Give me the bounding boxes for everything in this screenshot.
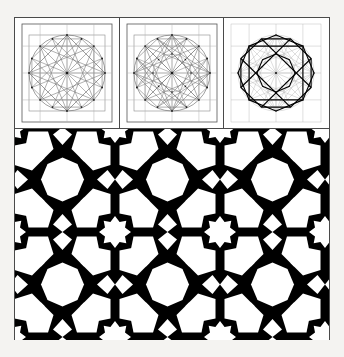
star-tessellation-region — [15, 128, 329, 340]
construction-svg-1 — [15, 18, 119, 128]
construction-svg-3 — [224, 18, 328, 128]
construction-diagram-row — [15, 18, 329, 128]
plate-canvas — [0, 0, 344, 357]
tessellation-fill — [15, 129, 329, 340]
construction-svg-2 — [120, 18, 224, 128]
construction-panel-1 — [15, 18, 120, 128]
construction-panel-3 — [224, 18, 329, 128]
figure-frame — [14, 17, 330, 340]
construction-panel-2 — [120, 18, 225, 128]
tessellation-svg — [15, 129, 329, 340]
